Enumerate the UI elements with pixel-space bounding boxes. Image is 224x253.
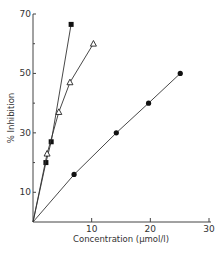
x-tick-label: 30 <box>203 224 215 234</box>
x-tick-label: 10 <box>86 224 98 234</box>
data-point-circle <box>178 71 183 76</box>
series-triangle-open <box>33 41 96 222</box>
data-point-circle <box>146 101 151 106</box>
series-circle-filled <box>33 71 183 222</box>
series-group <box>33 22 183 222</box>
data-point-triangle <box>67 79 73 85</box>
y-tick-label: 10 <box>20 187 32 197</box>
data-point-square <box>69 22 74 27</box>
x-tick-label: 20 <box>145 224 157 234</box>
y-axis-label: % Inhibition <box>6 93 16 143</box>
x-axis-label: Concentration (μmol/l) <box>73 234 169 244</box>
data-point-circle <box>71 172 76 177</box>
data-point-circle <box>114 130 119 135</box>
y-tick-label: 50 <box>20 68 32 78</box>
chart: 10203010305070 Concentration (μmol/l) % … <box>0 0 224 253</box>
series-line <box>33 73 180 222</box>
y-tick-label: 30 <box>20 128 32 138</box>
data-point-triangle <box>90 41 96 47</box>
y-tick-label: 70 <box>20 9 32 19</box>
axes: 10203010305070 <box>20 9 215 234</box>
